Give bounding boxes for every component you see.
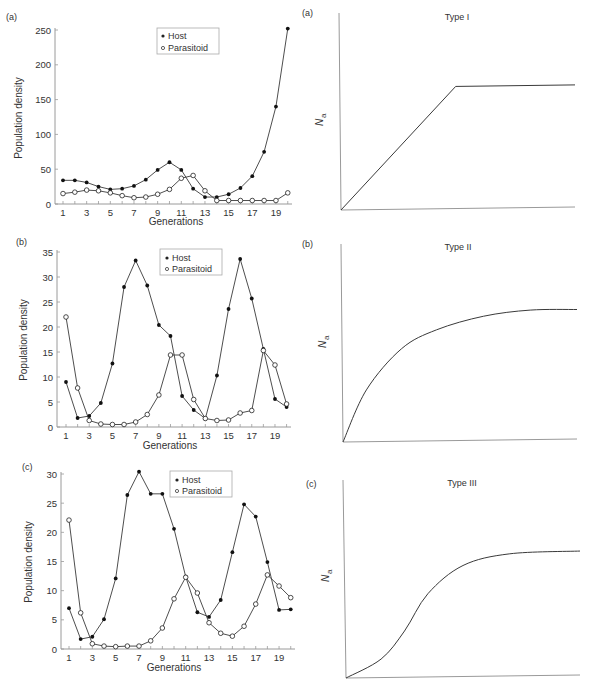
data-point-parasitoid bbox=[133, 420, 138, 425]
data-point-parasitoid bbox=[108, 191, 113, 196]
x-tick-label: 9 bbox=[155, 207, 160, 218]
y-tick-label: 10 bbox=[46, 585, 57, 596]
data-point-parasitoid bbox=[110, 422, 115, 427]
host-marker-icon bbox=[175, 478, 178, 481]
series-line-parasitoid bbox=[63, 175, 288, 200]
x-axis-label: Generations bbox=[147, 662, 201, 673]
data-point-host bbox=[90, 635, 94, 639]
data-point-parasitoid bbox=[145, 412, 150, 417]
data-point-parasitoid bbox=[102, 644, 107, 649]
x-tick-label: 5 bbox=[110, 430, 115, 441]
data-point-host bbox=[73, 178, 77, 182]
data-point-host bbox=[144, 178, 148, 182]
x-tick-label: 5 bbox=[108, 207, 113, 218]
data-point-parasitoid bbox=[262, 198, 267, 203]
x-tick-label: 7 bbox=[131, 207, 136, 218]
x-tick-label: 3 bbox=[84, 207, 89, 218]
data-point-host bbox=[215, 374, 219, 378]
data-point-parasitoid bbox=[215, 418, 220, 423]
data-point-host bbox=[64, 380, 68, 384]
data-point-host bbox=[192, 408, 196, 412]
data-point-host bbox=[137, 470, 141, 474]
data-point-parasitoid bbox=[132, 195, 137, 200]
y-tick-label: 20 bbox=[42, 322, 53, 333]
y-tick-label: 5 bbox=[52, 614, 57, 625]
response-curve bbox=[341, 85, 575, 210]
data-point-parasitoid bbox=[75, 386, 80, 391]
data-point-parasitoid bbox=[144, 195, 149, 200]
data-point-parasitoid bbox=[261, 348, 266, 353]
data-point-parasitoid bbox=[148, 639, 153, 644]
data-point-host bbox=[111, 362, 115, 366]
y-axis bbox=[343, 480, 346, 678]
plot-area bbox=[343, 480, 580, 678]
panel-label: (b) bbox=[302, 239, 313, 249]
data-point-parasitoid bbox=[168, 353, 173, 358]
data-point-host bbox=[76, 416, 80, 420]
y-tick-label: 150 bbox=[35, 94, 51, 105]
data-point-host bbox=[219, 598, 223, 602]
data-point-host bbox=[273, 397, 277, 401]
data-point-host bbox=[254, 515, 258, 519]
x-tick-label: 5 bbox=[113, 652, 118, 663]
data-point-parasitoid bbox=[191, 397, 196, 402]
x-tick-label: 19 bbox=[270, 430, 281, 441]
y-tick-label: 5 bbox=[48, 397, 53, 408]
data-point-host bbox=[168, 160, 172, 164]
svg-text:a: a bbox=[322, 335, 331, 340]
x-axis bbox=[343, 439, 577, 442]
data-point-parasitoid bbox=[238, 411, 243, 416]
parasitoid-marker-icon bbox=[165, 267, 168, 270]
functional-response-type-1: (a) Type I N a bbox=[302, 8, 575, 210]
data-point-host bbox=[120, 187, 124, 191]
data-point-host bbox=[250, 174, 254, 178]
data-point-parasitoid bbox=[96, 188, 101, 193]
y-tick-label: 15 bbox=[42, 347, 53, 358]
x-tick-label: 1 bbox=[63, 430, 68, 441]
response-curve bbox=[346, 551, 580, 678]
y-tick-label: 0 bbox=[46, 199, 51, 210]
svg-text:N: N bbox=[314, 118, 325, 126]
data-point-parasitoid bbox=[183, 575, 188, 580]
data-point-parasitoid bbox=[226, 418, 231, 423]
legend-host: Host bbox=[168, 31, 187, 41]
data-point-host bbox=[286, 27, 290, 31]
functional-response-type-3: (c) Type III N a bbox=[306, 478, 580, 678]
data-point-host bbox=[61, 178, 65, 182]
data-point-host bbox=[85, 181, 89, 185]
x-axis bbox=[341, 207, 575, 210]
y-axis bbox=[339, 13, 341, 210]
y-tick-label: 0 bbox=[52, 644, 57, 655]
x-tick-label: 13 bbox=[200, 207, 211, 218]
data-point-host bbox=[262, 150, 266, 154]
y-axis-label: Population density bbox=[18, 299, 29, 381]
data-point-parasitoid bbox=[64, 315, 69, 320]
data-point-parasitoid bbox=[90, 641, 95, 646]
data-point-parasitoid bbox=[157, 393, 162, 398]
y-axis bbox=[341, 244, 343, 442]
y-tick-label: 30 bbox=[46, 469, 57, 480]
data-point-host bbox=[227, 307, 231, 311]
plot-area: 051015202530135791113151719 bbox=[46, 469, 295, 664]
x-axis-label: Generations bbox=[143, 440, 197, 451]
data-point-parasitoid bbox=[125, 644, 130, 649]
data-point-host bbox=[239, 186, 243, 190]
x-tick-label: 1 bbox=[66, 652, 71, 663]
svg-text:a: a bbox=[319, 113, 328, 118]
data-point-parasitoid bbox=[99, 422, 104, 427]
y-tick-label: 25 bbox=[46, 498, 57, 509]
series-line-parasitoid bbox=[69, 520, 291, 647]
y-tick-label: 250 bbox=[35, 25, 51, 36]
data-point-parasitoid bbox=[203, 416, 208, 421]
x-tick-label: 15 bbox=[223, 430, 234, 441]
response-curve bbox=[343, 309, 577, 442]
plot-area: 05101520253035135791113151719 bbox=[42, 247, 291, 442]
chart-title: Type I bbox=[445, 12, 470, 22]
data-point-parasitoid bbox=[67, 518, 72, 523]
data-point-host bbox=[172, 527, 176, 531]
data-point-host bbox=[122, 285, 126, 289]
data-point-parasitoid bbox=[288, 595, 293, 600]
x-tick-label: 13 bbox=[200, 430, 211, 441]
data-point-parasitoid bbox=[113, 644, 118, 649]
data-point-parasitoid bbox=[73, 190, 78, 195]
